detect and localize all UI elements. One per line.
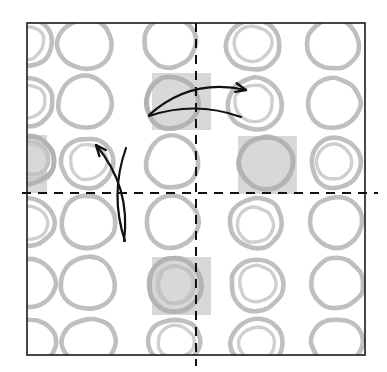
pattern-symmetry-diagram — [0, 0, 387, 372]
figure-canvas — [0, 0, 387, 372]
